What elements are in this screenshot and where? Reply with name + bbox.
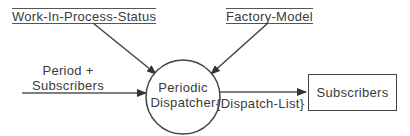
- flow-label-line2: Subscribers: [28, 78, 108, 93]
- data-store-work-in-process-status: Work-In-Process-Status: [12, 8, 156, 24]
- process-label-line2: Dispatcher: [146, 95, 220, 110]
- data-store-factory-model: Factory-Model: [226, 8, 313, 24]
- flow-label-line1: Period +: [28, 63, 108, 78]
- external-entity-subscribers: Subscribers: [308, 74, 397, 111]
- flow-label-dispatch-list: {Dispatch-List}: [216, 97, 304, 111]
- entity-label: Subscribers: [317, 85, 389, 100]
- process-label-line1: Periodic: [146, 80, 220, 95]
- data-store-label: Factory-Model: [226, 9, 313, 24]
- flow-factory-to-dispatcher: [211, 23, 268, 74]
- flow-label-period-subscribers: Period + Subscribers: [28, 63, 108, 93]
- process-periodic-dispatcher: Periodic Dispatcher: [146, 80, 220, 110]
- data-store-label: Work-In-Process-Status: [12, 9, 156, 24]
